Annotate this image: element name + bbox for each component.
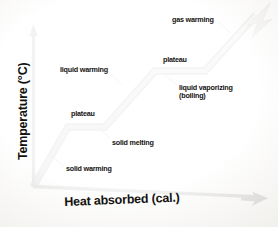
heating-curve-diagram: Temperature (°C) Heat absorbed (cal.) so… (0, 0, 278, 227)
annotation-liquid-warming: liquid warming (60, 66, 108, 74)
annotation-plateau-2: plateau (163, 56, 187, 64)
heating-curve-line (33, 3, 272, 187)
annotation-solid-warming: solid warming (66, 165, 112, 173)
leader-liquid-vaporizing (164, 74, 177, 85)
curve-fill (33, 15, 256, 187)
x-axis-arrowhead (241, 191, 268, 205)
curve-outline (33, 15, 256, 187)
leader-gas-warming (217, 21, 231, 33)
leader-liquid-warming (107, 70, 121, 84)
annotation-liquid-vaporizing-line2: (boiling) (179, 91, 206, 100)
y-axis-label: Temperature (°C) (17, 63, 30, 160)
annotation-liquid-vaporizing: liquid vaporizing (boiling) (179, 84, 233, 99)
annotation-gas-warming: gas warming (172, 16, 214, 24)
annotation-solid-melting: solid melting (112, 139, 154, 147)
y-axis (29, 24, 38, 187)
annotation-plateau-1: plateau (71, 110, 95, 118)
